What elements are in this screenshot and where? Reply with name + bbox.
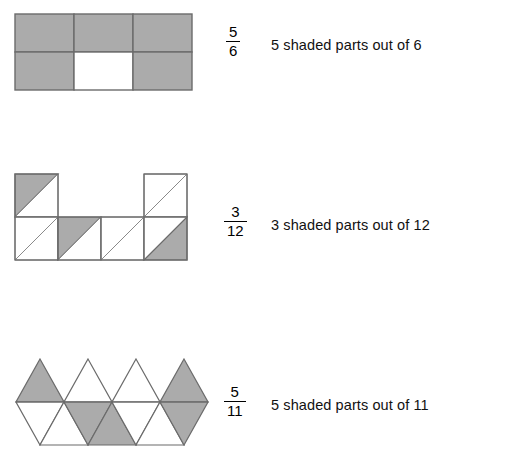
grid-cell-0-shaded <box>15 14 74 52</box>
triangle-strip-svg <box>14 357 210 449</box>
triangle-top-1-unshaded <box>64 359 112 402</box>
split-square-staircase-svg <box>14 173 204 261</box>
figure-triangle-strip <box>14 357 210 449</box>
fraction-3-12: 3 12 <box>224 204 247 239</box>
grid-cell-3-shaded <box>15 52 74 90</box>
triangle-top-3-shaded <box>160 359 208 402</box>
fraction-numerator: 3 <box>224 204 247 221</box>
triangle-top-0-shaded <box>16 359 64 402</box>
fraction-numerator: 5 <box>226 24 240 41</box>
worksheet: 5 6 5 shaded parts out of 6 <box>0 0 511 457</box>
fraction-denominator: 11 <box>224 402 246 419</box>
rectangle-grid-svg <box>14 13 194 91</box>
grid-cell-1-shaded <box>74 14 133 52</box>
caption-shaded-parts-12: 3 shaded parts out of 12 <box>271 217 430 233</box>
triangle-top-2-unshaded <box>112 359 160 402</box>
fraction-denominator: 6 <box>226 42 240 59</box>
caption-shaded-parts-11: 5 shaded parts out of 11 <box>271 397 429 413</box>
fraction-5-6: 5 6 <box>226 24 240 59</box>
grid-cell-4-unshaded <box>74 52 133 90</box>
grid-cell-5-shaded <box>133 52 192 90</box>
figure-split-square-staircase <box>14 173 204 261</box>
figure-rectangle-grid <box>14 13 194 91</box>
fraction-numerator: 5 <box>224 384 246 401</box>
caption-shaded-parts-6: 5 shaded parts out of 6 <box>271 37 422 53</box>
grid-cell-2-shaded <box>133 14 192 52</box>
fraction-denominator: 12 <box>224 222 247 239</box>
fraction-5-11: 5 11 <box>224 384 246 419</box>
